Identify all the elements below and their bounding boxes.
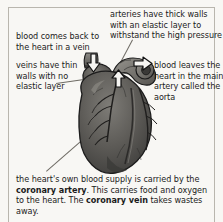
heart-diagram-figure: arteries have thick walls with an elasti… bbox=[0, 0, 223, 222]
label-veins-walls: veins have thin walls with no elastic la… bbox=[16, 60, 80, 92]
coronary-term-artery: coronary artery bbox=[16, 185, 87, 195]
page-rule-left bbox=[8, 7, 9, 222]
coronary-text-part1: the heart's own blood supply is carried … bbox=[16, 174, 199, 184]
arrow-up-icon bbox=[111, 69, 126, 88]
arrow-right-icon bbox=[133, 56, 153, 71]
label-aorta: blood leaves the heart in the main arter… bbox=[154, 60, 223, 102]
arrow-down-icon bbox=[86, 53, 101, 73]
coronary-term-vein: coronary vein bbox=[86, 195, 148, 205]
label-arteries: arteries have thick walls with an elasti… bbox=[110, 9, 223, 41]
page-rule-top bbox=[8, 7, 215, 8]
label-coronary-supply: the heart's own blood supply is carried … bbox=[16, 174, 212, 216]
label-vein-return: blood comes back to the heart in a vein bbox=[16, 31, 112, 52]
